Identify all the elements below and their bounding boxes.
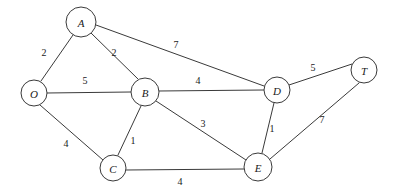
graph-edge-b-c	[118, 106, 141, 155]
graph-edge-o-c	[40, 105, 103, 160]
edge-weight-e-t: 7	[320, 114, 325, 125]
graph-edge-o-a	[41, 35, 73, 81]
node-label-b: B	[142, 87, 149, 99]
graph-svg-surface: 254274134157 OABCDET	[0, 0, 394, 192]
edge-weight-b-e: 3	[201, 118, 206, 129]
edge-weight-d-e: 1	[270, 123, 275, 134]
nodes-layer: OABCDET	[21, 7, 377, 181]
node-label-e: E	[254, 162, 262, 174]
edge-weight-labels-layer: 254274134157	[42, 39, 325, 187]
edge-weight-o-b: 5	[83, 75, 88, 86]
graph-node-o[interactable]: O	[21, 80, 47, 106]
graph-node-t[interactable]: T	[351, 57, 377, 83]
graph-node-e[interactable]: E	[244, 153, 272, 181]
node-label-t: T	[361, 65, 368, 77]
edge-weight-d-t: 5	[311, 62, 316, 73]
node-label-o: O	[30, 88, 38, 100]
graph-edge-b-e	[156, 101, 246, 160]
edge-weight-o-a: 2	[42, 47, 47, 58]
graph-edge-b-d	[159, 90, 264, 91]
edge-weight-b-d: 4	[196, 75, 201, 86]
edge-weight-b-c: 1	[131, 135, 136, 146]
edge-weight-a-d: 7	[174, 39, 179, 50]
edges-layer	[40, 25, 359, 170]
edge-weight-a-b: 2	[112, 47, 117, 58]
edge-weight-c-e: 4	[178, 176, 183, 187]
graph-edge-c-e	[126, 169, 244, 170]
graph-diagram: 254274134157 OABCDET	[0, 0, 394, 192]
node-label-d: D	[272, 85, 281, 97]
graph-edge-o-b	[47, 92, 131, 93]
graph-node-b[interactable]: B	[131, 78, 159, 106]
graph-node-d[interactable]: D	[264, 77, 290, 103]
node-label-c: C	[109, 163, 117, 175]
graph-edge-d-t	[289, 64, 352, 85]
edge-weight-o-c: 4	[64, 138, 69, 149]
graph-node-c[interactable]: C	[100, 155, 126, 181]
graph-node-a[interactable]: A	[66, 7, 96, 37]
node-label-a: A	[77, 17, 85, 29]
graph-edge-a-d	[96, 25, 264, 86]
